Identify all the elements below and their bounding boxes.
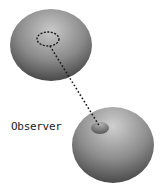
bottom-sphere bbox=[72, 107, 154, 183]
diagram-canvas: Observer bbox=[0, 0, 164, 192]
observer-label: Observer bbox=[11, 120, 62, 133]
top-sphere bbox=[10, 9, 92, 81]
observer-spot bbox=[91, 122, 109, 134]
diagram-svg bbox=[0, 0, 164, 192]
